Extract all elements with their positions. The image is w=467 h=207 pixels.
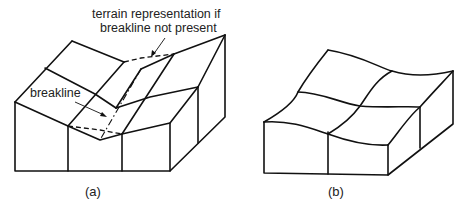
caption-b: (b) (328, 184, 344, 199)
smooth-surface-block-drawing (0, 0, 467, 207)
